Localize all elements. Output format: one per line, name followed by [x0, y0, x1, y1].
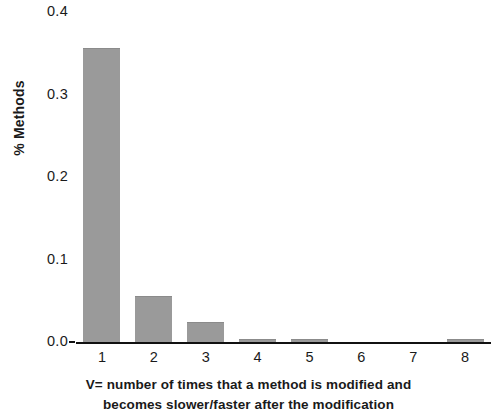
y-tick-label: 0.4 — [22, 4, 68, 19]
x-tick-label: 7 — [393, 350, 433, 365]
bar — [135, 296, 172, 342]
y-tick-mark — [69, 341, 75, 343]
bar-chart-figure: % Methods 0.40.30.20.10.0 12345678 V= nu… — [0, 0, 497, 419]
y-tick-label: 0.3 — [22, 87, 68, 102]
x-tick-label: 1 — [82, 350, 122, 365]
y-axis-title: % Methods — [11, 53, 27, 183]
x-tick-label: 8 — [445, 350, 485, 365]
plot-area — [76, 12, 491, 342]
bar — [187, 322, 224, 342]
x-tick-label: 4 — [238, 350, 278, 365]
x-tick-label: 5 — [289, 350, 329, 365]
bar — [83, 48, 120, 342]
x-tick-label: 3 — [186, 350, 226, 365]
x-tick-label: 2 — [134, 350, 174, 365]
y-tick-label: 0.0 — [22, 334, 68, 349]
caption-line-2: becomes slower/faster after the modifica… — [0, 395, 497, 415]
x-axis-line — [76, 342, 491, 344]
y-tick-label: 0.2 — [22, 169, 68, 184]
y-tick-label: 0.1 — [22, 252, 68, 267]
caption-line-1: V= number of times that a method is modi… — [0, 375, 497, 395]
x-tick-label: 6 — [341, 350, 381, 365]
chart-caption: V= number of times that a method is modi… — [0, 375, 497, 414]
